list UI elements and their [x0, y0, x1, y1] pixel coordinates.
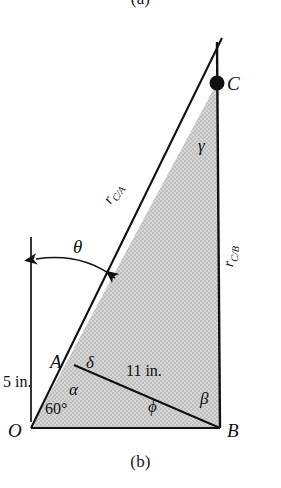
- dimension-label-oa: 5 in.: [3, 374, 31, 390]
- angle-label-sixty-degrees: 60°: [45, 401, 67, 417]
- point-label-o: O: [8, 421, 22, 440]
- point-label-c: C: [227, 74, 240, 93]
- vector-label-r-c-b: rC/B: [221, 245, 241, 268]
- angle-label-gamma: γ: [198, 137, 205, 154]
- caption-a: (a): [0, 0, 281, 9]
- dimension-label-ab: 11 in.: [126, 363, 162, 379]
- point-label-b: B: [227, 421, 239, 440]
- theta-arc: [36, 258, 115, 278]
- angle-label-theta: θ: [73, 237, 82, 256]
- point-c-marker: [210, 76, 225, 91]
- vector-r-cb-sub: C/B: [229, 246, 242, 263]
- angle-label-alpha: α: [69, 381, 78, 398]
- angle-label-delta: δ: [86, 354, 94, 371]
- angle-label-beta: β: [200, 390, 208, 407]
- caption-b: (b): [0, 452, 281, 472]
- point-label-a: A: [50, 352, 62, 371]
- angle-label-phi: ϕ: [148, 398, 157, 415]
